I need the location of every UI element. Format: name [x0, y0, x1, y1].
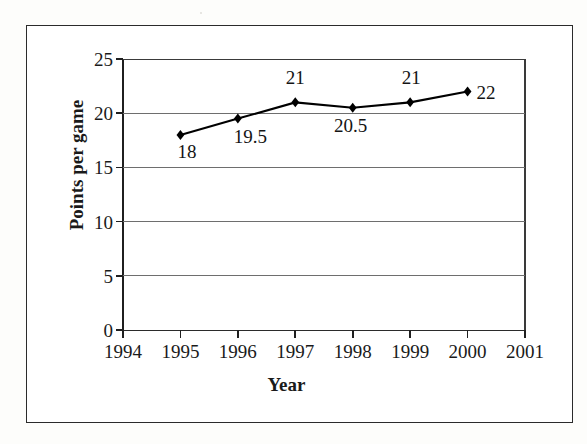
- y-axis-tick: [116, 275, 123, 277]
- x-axis-tick-label: 1998: [334, 342, 372, 361]
- y-axis-tick: [116, 58, 123, 60]
- y-axis-tick: [116, 167, 123, 169]
- x-axis-tick: [294, 330, 296, 338]
- plot-area: 0510152025 19941995199619971998199920002…: [123, 59, 525, 330]
- x-axis-tick: [122, 330, 124, 338]
- y-axis-tick-label: 15: [94, 158, 113, 177]
- data-point-marker: [464, 87, 472, 97]
- data-point-marker: [349, 103, 357, 113]
- x-axis-title-text: Year: [268, 374, 306, 396]
- data-point-marker: [291, 97, 299, 107]
- x-axis-tick-label: 2001: [506, 342, 544, 361]
- page-background: Points per game Year 0510152025 19941995…: [0, 0, 587, 444]
- x-axis-tick: [237, 330, 239, 338]
- x-axis-tick: [467, 330, 469, 338]
- x-axis-tick-label: 1999: [391, 342, 429, 361]
- y-axis-tick-label: 20: [94, 104, 113, 123]
- y-axis-tick-label: 0: [104, 321, 114, 340]
- x-axis-tick-label: 1997: [276, 342, 314, 361]
- x-axis-tick: [524, 330, 526, 338]
- x-axis-tick-label: 1994: [104, 342, 142, 361]
- x-axis-title: Year: [27, 374, 574, 396]
- data-point-marker: [177, 130, 185, 140]
- data-point-label: 20.5: [334, 116, 367, 135]
- x-axis-tick: [409, 330, 411, 338]
- data-point-marker: [234, 114, 242, 124]
- scan-speck: [200, 12, 202, 14]
- y-axis-tick: [116, 221, 123, 223]
- y-axis-tick-label: 25: [94, 50, 113, 69]
- x-axis-tick-label: 2000: [449, 342, 487, 361]
- data-point-marker: [406, 97, 414, 107]
- data-point-label: 22: [477, 83, 496, 102]
- chart-figure-frame: Points per game Year 0510152025 19941995…: [26, 25, 573, 423]
- x-axis-tick-label: 1995: [161, 342, 199, 361]
- y-axis-tick-label: 10: [94, 213, 113, 232]
- data-point-label: 21: [402, 68, 421, 87]
- data-series-svg: [123, 59, 525, 330]
- data-point-label: 19.5: [234, 127, 267, 146]
- series-markers: [177, 87, 472, 140]
- x-axis-tick: [180, 330, 182, 338]
- data-point-label: 21: [286, 68, 305, 87]
- data-point-label: 18: [177, 142, 196, 161]
- y-axis-tick: [116, 112, 123, 114]
- series-line: [180, 92, 467, 135]
- y-axis-tick-label: 5: [104, 267, 114, 286]
- x-axis-tick: [352, 330, 354, 338]
- y-axis-title: Points per game: [66, 65, 88, 265]
- x-axis-tick-label: 1996: [219, 342, 257, 361]
